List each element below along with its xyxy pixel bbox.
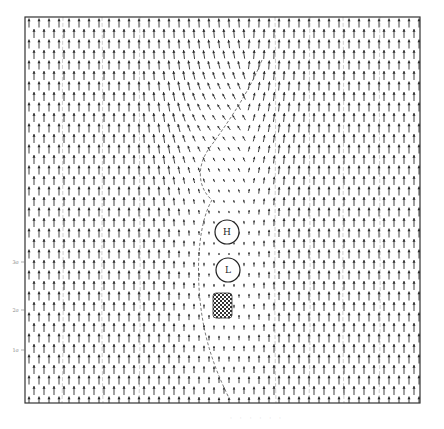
left-axis-ticks: 3σ2σ1σ (12, 259, 25, 353)
high-pressure-marker: H (215, 220, 239, 244)
axis-tick-label: 2σ (12, 307, 19, 313)
axis-tick-label: 3σ (12, 259, 19, 265)
contour-line (102, 17, 103, 403)
low-pressure-marker: L (216, 258, 240, 282)
axis-tick-label: 1σ (12, 347, 19, 353)
low-label: L (225, 265, 231, 275)
velocity-arrows (27, 19, 420, 406)
contour-line (275, 17, 276, 403)
high-label: H (223, 227, 231, 237)
crosshatched-obstacle (213, 293, 232, 318)
vector-field-figure: H L 3σ2σ1σ (0, 0, 444, 429)
contour-line (62, 17, 63, 403)
figure-caption: · · · · · · (230, 414, 284, 421)
